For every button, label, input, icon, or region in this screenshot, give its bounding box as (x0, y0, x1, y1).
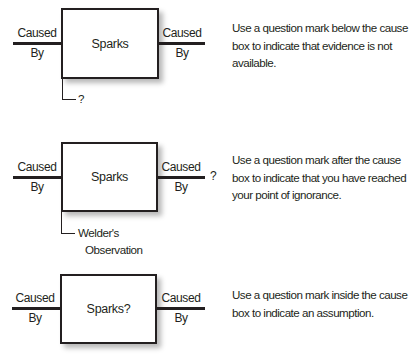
right-connector-line (156, 307, 205, 310)
cause-box-label: Sparks? (62, 302, 155, 316)
left-connector-top-label: Caused (12, 291, 58, 305)
left-connector-bottom-label: By (12, 311, 58, 325)
description-text: Use a question mark inside the cause box… (232, 286, 412, 321)
right-connector-bottom-label: By (159, 311, 203, 325)
cause-box: Sparks? (60, 274, 157, 344)
right-connector-top-label: Caused (159, 291, 203, 305)
diagram-assumption: Caused By Sparks? Caused By Use a questi… (0, 0, 413, 360)
left-connector-line (12, 307, 61, 310)
